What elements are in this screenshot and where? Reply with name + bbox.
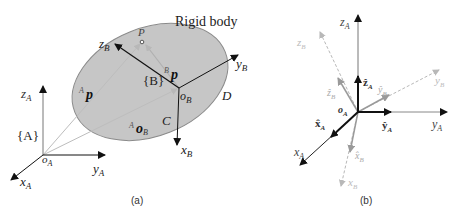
label-zB: zB	[98, 36, 110, 53]
label-yB: yB	[234, 56, 248, 73]
label-zhatB: ẑB	[326, 87, 336, 101]
label-zhatA: ẑA	[363, 76, 373, 91]
caption-a: (a)	[131, 195, 143, 206]
label-xB-b: xB	[347, 176, 358, 191]
point-P-marker	[140, 40, 144, 44]
label-xhatA: x̂A	[315, 117, 326, 132]
label-xA: xA	[19, 174, 32, 191]
label-yA-b: yA	[431, 117, 442, 133]
label-zB-b: zB	[296, 36, 306, 51]
label-zA: zA	[20, 86, 32, 103]
label-yhatB: ŷB	[377, 84, 387, 98]
axis-zB-dashed	[320, 32, 358, 112]
frame-B-label: {B}	[143, 73, 164, 88]
axis-xA	[11, 155, 43, 180]
panel-b: zA yA xA ẑA ŷA x̂A oA zB yB xB ẑB ŷB x̂B…	[293, 15, 447, 206]
label-zA-b: zA	[339, 15, 350, 31]
point-D-label: D	[221, 88, 232, 103]
label-xA-b: xA	[293, 145, 304, 161]
label-oA-b: oA	[338, 104, 348, 118]
diagram-canvas: Rigid body P zB yB xB oB {B} Bp Ap AoB C…	[0, 0, 456, 217]
caption-b: (b)	[360, 195, 372, 206]
label-xhatB: x̂B	[354, 150, 364, 164]
point-C-label: C	[162, 113, 171, 128]
frame-A-label: {A}	[17, 128, 39, 143]
label-yB-b: yB	[434, 74, 445, 89]
label-yhatA: ŷA	[382, 119, 393, 134]
point-P-label: P	[137, 26, 145, 38]
rigid-body-title: Rigid body	[175, 14, 238, 29]
panel-a: Rigid body P zB yB xB oB {B} Bp Ap AoB C…	[11, 2, 248, 206]
label-xB: xB	[180, 142, 193, 159]
label-yA: yA	[91, 161, 105, 178]
